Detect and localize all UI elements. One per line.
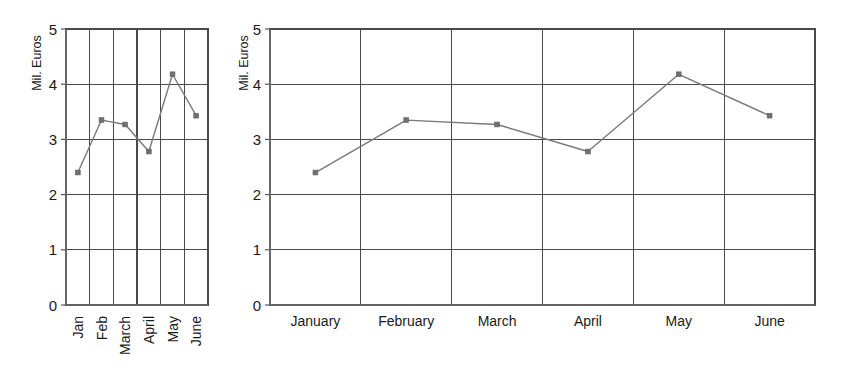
x-tick-label: April [574,313,602,329]
y-tick-label: 3 [253,131,261,148]
x-tick-label: January [291,313,341,329]
y-tick-label: 2 [253,186,261,203]
y-tick-label: 0 [253,297,261,314]
data-point-marker[interactable] [123,122,128,127]
narrow-y-axis-title: Mil. Euros [30,35,44,91]
narrow-gridlines [61,29,208,305]
line-chart-wide: Mil. Euros 012345 JanuaryFebruaryMarchAp… [230,0,851,369]
line-chart-narrow: Mil. Euros 012345 JanFebMarchAprilMayJun… [0,0,230,369]
data-point-marker[interactable] [767,113,772,118]
data-point-marker[interactable] [75,170,80,175]
narrow-y-tick-labels: 012345 [49,21,57,314]
y-tick-label: 0 [49,297,57,314]
x-tick-label: Jan [70,316,86,339]
data-point-marker[interactable] [99,118,104,123]
data-point-marker[interactable] [586,149,591,154]
wide-gridlines [265,29,815,305]
y-tick-label: 2 [49,186,57,203]
y-tick-label: 5 [49,21,57,38]
y-tick-label: 4 [49,76,57,93]
wide-chart-svg: Mil. Euros 012345 JanuaryFebruaryMarchAp… [230,0,851,369]
y-tick-label: 4 [253,76,261,93]
data-point-marker[interactable] [313,170,318,175]
data-point-marker[interactable] [404,118,409,123]
x-tick-label: March [117,316,133,355]
narrow-y-axis-title-text: Mil. Euros [30,35,44,91]
narrow-x-tick-labels: JanFebMarchAprilMayJune [70,316,204,355]
data-point-marker[interactable] [194,113,199,118]
wide-y-axis-title-text: Mil. Euros [237,35,251,91]
wide-x-tick-labels: JanuaryFebruaryMarchAprilMayJune [291,313,785,329]
wide-y-axis-title: Mil. Euros [237,35,251,91]
data-point-marker[interactable] [495,122,500,127]
x-tick-label: June [188,316,204,347]
y-tick-label: 5 [253,21,261,38]
data-point-marker[interactable] [146,149,151,154]
data-point-marker[interactable] [170,72,175,77]
y-tick-label: 1 [49,241,57,258]
x-tick-label: May [666,313,692,329]
x-tick-label: April [141,316,157,344]
x-tick-label: June [754,313,785,329]
figure-canvas: Mil. Euros 012345 JanFebMarchAprilMayJun… [0,0,851,369]
x-tick-label: Feb [94,316,110,340]
narrow-chart-svg: Mil. Euros 012345 JanFebMarchAprilMayJun… [0,0,230,369]
y-tick-label: 3 [49,131,57,148]
x-tick-label: March [478,313,517,329]
x-tick-label: May [165,316,181,342]
data-point-marker[interactable] [676,72,681,77]
wide-y-tick-labels: 012345 [253,21,261,314]
y-tick-label: 1 [253,241,261,258]
x-tick-label: February [378,313,434,329]
